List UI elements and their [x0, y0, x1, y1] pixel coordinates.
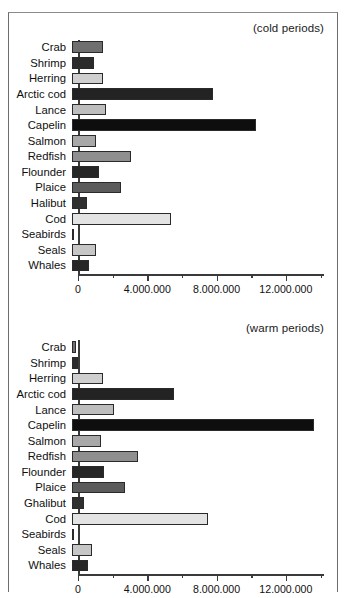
bar-row: Cod: [0, 212, 346, 228]
bar: [72, 357, 78, 369]
bar-row: Flounder: [0, 465, 346, 481]
bar-row: Arctic cod: [0, 387, 346, 403]
bar-track: [72, 434, 346, 450]
bar-row: Seabirds: [0, 527, 346, 543]
bar-row: Plaice: [0, 480, 346, 496]
bar: [72, 104, 106, 116]
x-tick-major: [286, 574, 287, 581]
x-tick-minor: [182, 574, 183, 578]
chart-title-warm: (warm periods): [246, 322, 324, 334]
bar: [72, 388, 174, 400]
bar: [72, 213, 171, 225]
x-tick-major: [217, 274, 218, 281]
x-tick-minor: [113, 274, 114, 278]
bar-row: Seals: [0, 543, 346, 559]
bar-track: [72, 258, 346, 274]
plot-area-cold: CrabShrimpHerringArctic codLanceCapelinS…: [0, 40, 346, 274]
bar: [72, 197, 87, 209]
category-label: Capelin: [0, 120, 72, 131]
figure-root: (cold periods) CrabShrimpHerringArctic c…: [0, 0, 346, 598]
bar-row: Plaice: [0, 180, 346, 196]
x-tick-minor: [251, 574, 252, 578]
category-label: Herring: [0, 73, 72, 84]
bar-row: Lance: [0, 102, 346, 118]
bar-track: [72, 56, 346, 72]
bar-track: [72, 543, 346, 559]
x-tick-label: 0: [75, 283, 81, 295]
x-tick-major: [78, 574, 79, 581]
bar-track: [72, 387, 346, 403]
x-tick-major: [78, 274, 79, 281]
category-label: Whales: [0, 260, 72, 271]
bar-track: [72, 134, 346, 150]
category-label: Capelin: [0, 420, 72, 431]
category-label: Flounder: [0, 167, 72, 178]
bar: [72, 466, 104, 478]
category-label: Halibut: [0, 198, 72, 209]
bar-row: Redfish: [0, 149, 346, 165]
x-axis-cold: 04.000.0008.000.00012.000.000: [0, 274, 346, 304]
bar: [72, 544, 92, 556]
chart-panel-cold: (cold periods) CrabShrimpHerringArctic c…: [0, 22, 346, 307]
bar-track: [72, 418, 346, 434]
bar-track: [72, 87, 346, 103]
x-tick-label: 0: [75, 583, 81, 595]
bar-row: Herring: [0, 71, 346, 87]
bar-track: [72, 449, 346, 465]
category-label: Lance: [0, 405, 72, 416]
bar-track: [72, 149, 346, 165]
bar-track: [72, 118, 346, 134]
chart-panel-warm: (warm periods) CrabShrimpHerringArctic c…: [0, 322, 346, 592]
bar-track: [72, 465, 346, 481]
bar-track: [72, 496, 346, 512]
bar-row: Crab: [0, 340, 346, 356]
x-tick-label: 8.000.000: [193, 583, 240, 595]
bar-row: Halibut: [0, 196, 346, 212]
bar: [72, 435, 101, 447]
bar-track: [72, 243, 346, 259]
bar-row: Cod: [0, 512, 346, 528]
category-label: Seabirds: [0, 529, 72, 540]
bar: [72, 119, 256, 131]
bar-row: Arctic cod: [0, 87, 346, 103]
bar-row: Shrimp: [0, 56, 346, 72]
category-label: Ghalibut: [0, 498, 72, 509]
x-tick-minor: [321, 574, 322, 578]
category-label: Arctic cod: [0, 389, 72, 400]
bar: [72, 166, 99, 178]
bar: [72, 451, 138, 463]
bar-track: [72, 356, 346, 372]
x-tick-major: [217, 574, 218, 581]
bar: [72, 57, 94, 69]
category-label: Shrimp: [0, 58, 72, 69]
bar-row: Shrimp: [0, 356, 346, 372]
bar-rows-warm: CrabShrimpHerringArctic codLanceCapelinS…: [0, 340, 346, 574]
bar: [72, 513, 208, 525]
bar-row: Capelin: [0, 118, 346, 134]
category-label: Cod: [0, 214, 72, 225]
category-label: Redfish: [0, 151, 72, 162]
bar-track: [72, 196, 346, 212]
bar-row: Crab: [0, 40, 346, 56]
bar: [72, 404, 114, 416]
bar-row: Herring: [0, 371, 346, 387]
category-label: Cod: [0, 514, 72, 525]
category-label: Plaice: [0, 482, 72, 493]
category-label: Seabirds: [0, 229, 72, 240]
x-tick-label: 12.000.000: [259, 583, 312, 595]
bar: [72, 482, 125, 494]
x-tick-label: 12.000.000: [259, 283, 312, 295]
bar: [72, 73, 103, 85]
category-label: Lance: [0, 105, 72, 116]
bar: [72, 41, 103, 53]
category-label: Crab: [0, 42, 72, 53]
x-tick-minor: [251, 274, 252, 278]
category-label: Flounder: [0, 467, 72, 478]
bar-track: [72, 402, 346, 418]
bar: [72, 260, 89, 272]
bar: [72, 151, 131, 163]
x-tick-major: [147, 274, 148, 281]
category-label: Crab: [0, 342, 72, 353]
bar: [72, 88, 213, 100]
category-label: Arctic cod: [0, 89, 72, 100]
